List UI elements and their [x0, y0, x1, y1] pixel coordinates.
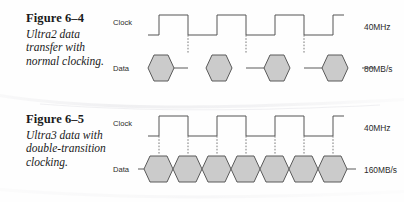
figure-6-5-diagram: Clock Data: [112, 107, 404, 199]
figure-6-5-data-symbol: [260, 156, 289, 182]
figure-6-5-data-symbol: [231, 156, 260, 182]
figure-6-4-data-rate: 80MB/s: [364, 64, 392, 74]
figure-6-5: Figure 6–5 Ultra3 data with double-trans…: [0, 101, 404, 202]
page-canvas: Figure 6–4 Ultra2 data transfer with nor…: [0, 0, 404, 202]
figure-6-5-data-symbol: [202, 156, 231, 182]
figure-6-5-clock-waveform: [148, 116, 344, 136]
figure-6-4-diagram: Clock Data 40MHz 80MB/s: [112, 6, 404, 98]
figure-6-5-caption-text: Ultra3 data with double-transition clock…: [26, 129, 112, 169]
figure-6-5-caption-title: Figure 6–5: [26, 112, 112, 126]
figure-6-4-data-label: Data: [113, 64, 130, 73]
figure-6-5-clock-label: Clock: [113, 119, 132, 128]
figure-6-4-clock-waveform: [148, 15, 344, 35]
figure-6-4-caption-title: Figure 6–4: [26, 11, 112, 25]
figure-6-5-data-symbol: [318, 156, 347, 182]
figure-6-5-data-symbol: [144, 156, 173, 182]
figure-6-4-data-symbol: [206, 55, 232, 81]
figure-6-4-data-symbol: [322, 55, 348, 81]
figure-6-4-data-symbol: [264, 55, 290, 81]
figure-6-4: Figure 6–4 Ultra2 data transfer with nor…: [0, 0, 404, 101]
figure-6-5-data-symbol: [289, 156, 318, 182]
figure-6-5-data-label: Data: [113, 165, 130, 174]
figure-6-4-data-symbol: [148, 55, 174, 81]
figure-6-5-clock-rate: 40MHz: [364, 123, 391, 133]
figure-6-5-caption: Figure 6–5 Ultra3 data with double-trans…: [26, 112, 112, 169]
figure-6-4-caption-text: Ultra2 data transfer with normal clockin…: [26, 28, 112, 68]
figure-6-4-caption: Figure 6–4 Ultra2 data transfer with nor…: [26, 11, 112, 68]
figure-6-4-clock-label: Clock: [113, 18, 132, 27]
figure-6-5-data-symbol: [173, 156, 202, 182]
figure-6-5-data-rate: 160MB/s: [364, 165, 397, 175]
figure-6-4-clock-rate: 40MHz: [364, 22, 391, 32]
